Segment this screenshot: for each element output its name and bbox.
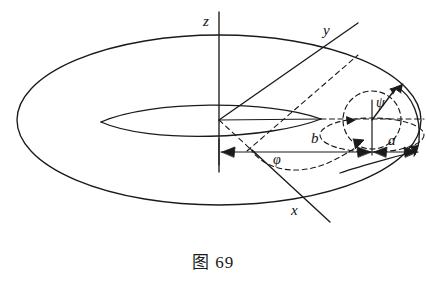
torus-diagram (0, 0, 426, 282)
inner-hole-left-ridge (101, 120, 219, 122)
y-axis-label: y (323, 23, 330, 38)
a-dimension-left-arrowhead (374, 147, 387, 157)
y-axis-line (219, 23, 358, 120)
x-axis-label: x (291, 203, 298, 218)
inner-hole-ridge-line (219, 119, 321, 120)
phi-angle-arc (250, 142, 362, 170)
tube-outer-lower-curve (340, 152, 412, 173)
phi-angle-label: φ (273, 153, 281, 167)
major-radius-label: b (311, 131, 319, 146)
b-dimension-arrowhead (357, 147, 371, 157)
psi-arc-arrowhead-top (394, 84, 403, 93)
y-axis-dashed-projection (247, 55, 358, 151)
psi-angle-label: ψ (376, 96, 385, 110)
b-direction-arrowhead (346, 116, 356, 125)
minor-radius-label: a (388, 133, 396, 148)
figure-caption: 图 69 (0, 248, 426, 273)
figure-container: z y x ψ φ a b 图 69 (0, 0, 426, 282)
dimension-left-arrowhead (222, 147, 235, 157)
z-axis-label: z (203, 14, 209, 29)
